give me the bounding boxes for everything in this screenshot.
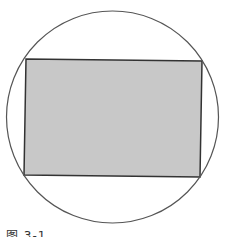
circle-rectangle-diagram (0, 0, 225, 237)
inscribed-rectangle (24, 59, 202, 177)
figure-caption: 图 3-1 (6, 230, 46, 237)
figure-caption-clipped: 图 3-1 (6, 229, 86, 237)
